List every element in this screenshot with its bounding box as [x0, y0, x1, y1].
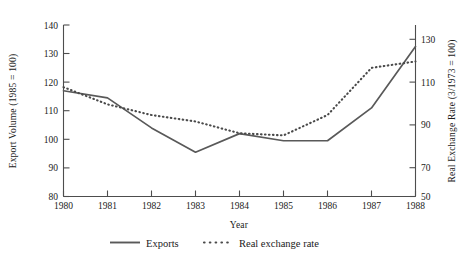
left-tick-label-100: 100 — [44, 135, 59, 145]
left-axis-ticks — [64, 25, 70, 197]
x-tick-label-1981: 1981 — [98, 201, 117, 211]
chart-legend: Exports Real exchange rate — [110, 238, 319, 249]
left-tick-label-130: 130 — [44, 49, 59, 59]
x-axis-tick-labels: 1980 1981 1982 1983 1984 1985 1986 1987 … — [54, 201, 425, 211]
left-tick-label-140: 140 — [44, 21, 59, 31]
left-axis-tick-labels: 140 130 120 110 100 90 80 — [44, 21, 59, 203]
right-tick-label-70: 70 — [421, 163, 431, 173]
x-tick-label-1980: 1980 — [54, 201, 73, 211]
x-tick-label-1982: 1982 — [142, 201, 161, 211]
right-axis-title: Real Exchange Rate (3/1973 = 100) — [447, 39, 458, 182]
right-axis-tick-labels: 130 110 90 70 50 — [421, 35, 436, 202]
legend-label-exports: Exports — [146, 238, 179, 249]
x-tick-label-1988: 1988 — [406, 201, 425, 211]
chart-figure: Export Volume (1985 = 100) Real Exchange… — [0, 0, 466, 259]
x-axis-ticks — [64, 191, 416, 197]
right-tick-label-110: 110 — [421, 78, 435, 88]
series-line-real-exchange-rate — [64, 61, 416, 135]
x-tick-label-1983: 1983 — [186, 201, 205, 211]
series-line-exports — [64, 46, 416, 152]
legend-label-real-exchange-rate: Real exchange rate — [239, 238, 319, 249]
left-tick-label-120: 120 — [44, 78, 59, 88]
x-tick-label-1987: 1987 — [362, 201, 381, 211]
x-tick-label-1984: 1984 — [230, 201, 249, 211]
chart-svg: Export Volume (1985 = 100) Real Exchange… — [0, 0, 466, 259]
left-axis-title: Export Volume (1985 = 100) — [8, 54, 19, 169]
x-tick-label-1985: 1985 — [274, 201, 293, 211]
x-tick-label-1986: 1986 — [318, 201, 337, 211]
left-tick-label-90: 90 — [49, 163, 59, 173]
right-tick-label-90: 90 — [421, 120, 431, 130]
right-tick-label-130: 130 — [421, 35, 436, 45]
x-axis-title: Year — [230, 220, 249, 230]
left-tick-label-110: 110 — [44, 106, 58, 116]
